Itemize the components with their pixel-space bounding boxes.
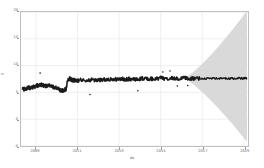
y-axis-label: y [1, 59, 5, 89]
x-tick-mark [245, 147, 246, 150]
x-tick-label: 2011 [72, 150, 81, 154]
x-axis-label: ds [0, 157, 264, 161]
x-tick-label: 2017 [198, 150, 207, 154]
x-tick-label: 2019 [240, 150, 249, 154]
x-tick-mark [119, 147, 120, 150]
x-tick-mark [203, 147, 204, 150]
x-tick-mark [161, 147, 162, 150]
x-tick-label: 2013 [114, 150, 123, 154]
x-tick-label: 2009 [31, 150, 40, 154]
forecast-chart-figure: -505101520 200920112013201520172019 ds y [0, 0, 264, 168]
x-axis-ticks: 200920112013201520172019 [0, 0, 264, 168]
x-tick-mark [35, 147, 36, 150]
x-tick-mark [77, 147, 78, 150]
x-tick-label: 2015 [156, 150, 165, 154]
